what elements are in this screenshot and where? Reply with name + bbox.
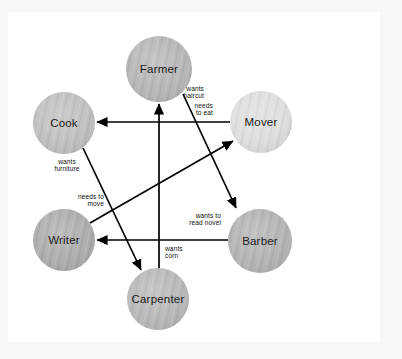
nodes-group: FarmerCookMoverWriterBarberCarpenter	[33, 36, 292, 330]
node-label-writer: Writer	[48, 234, 80, 246]
node-carpenter[interactable]: Carpenter	[127, 268, 189, 330]
node-label-carpenter: Carpenter	[132, 293, 185, 305]
edge-label-writer-to-mover: needs tomove	[78, 193, 104, 207]
edge-label-carpenter-to-farmer: wantscorn	[164, 245, 183, 259]
edge-label-cook-to-carpenter: wantsfurniture	[54, 158, 79, 172]
edge-label-barber-to-writer: wants toread novel	[189, 212, 221, 226]
edge-writer-to-mover	[90, 141, 233, 223]
node-farmer[interactable]: Farmer	[126, 36, 192, 102]
edge-label-mover-to-cook: needsto eat	[195, 102, 214, 116]
diagram-figure: FarmerCookMoverWriterBarberCarpenter nee…	[0, 0, 402, 359]
node-barber[interactable]: Barber	[228, 209, 292, 273]
edge-label-farmer-to-barber: wantshaircut	[184, 85, 205, 99]
node-writer[interactable]: Writer	[33, 209, 95, 271]
node-label-farmer: Farmer	[140, 63, 178, 75]
node-label-cook: Cook	[50, 117, 78, 129]
wants-needs-graph: FarmerCookMoverWriterBarberCarpenter nee…	[0, 0, 402, 359]
node-label-mover: Mover	[245, 116, 278, 128]
node-label-barber: Barber	[242, 235, 278, 247]
node-cook[interactable]: Cook	[33, 92, 95, 154]
node-mover[interactable]: Mover	[230, 91, 292, 153]
edges-group	[83, 94, 236, 270]
